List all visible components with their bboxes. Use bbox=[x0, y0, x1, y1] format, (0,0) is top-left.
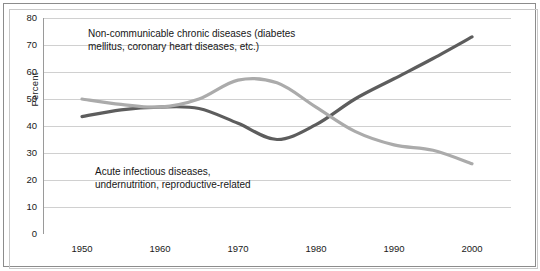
chart-figure: Percent 01020304050607080 19501960197019… bbox=[0, 0, 540, 271]
x-tick-label: 1990 bbox=[364, 244, 424, 254]
x-tick-label: 2000 bbox=[442, 244, 502, 254]
y-tick-label: 60 bbox=[11, 67, 37, 77]
y-tick-label: 50 bbox=[11, 94, 37, 104]
x-tick-label: 1960 bbox=[130, 244, 190, 254]
x-tick-label: 1950 bbox=[52, 244, 112, 254]
y-tick-label: 0 bbox=[11, 229, 37, 239]
y-tick-label: 80 bbox=[11, 13, 37, 23]
y-tick-label: 20 bbox=[11, 175, 37, 185]
y-tick-label: 30 bbox=[11, 148, 37, 158]
y-tick-label: 70 bbox=[11, 40, 37, 50]
series-line-acute bbox=[82, 79, 472, 164]
annotation-acute-diseases: Acute infectious diseases, undernutritio… bbox=[95, 165, 325, 191]
annotation-chronic-diseases: Non-communicable chronic diseases (diabe… bbox=[88, 27, 348, 53]
series-lines bbox=[82, 37, 472, 164]
x-tick-label: 1980 bbox=[286, 244, 346, 254]
y-axis-title: Percent bbox=[29, 50, 40, 130]
y-tick-label: 40 bbox=[11, 121, 37, 131]
y-tick-label: 10 bbox=[11, 202, 37, 212]
x-tick-label: 1970 bbox=[208, 244, 268, 254]
